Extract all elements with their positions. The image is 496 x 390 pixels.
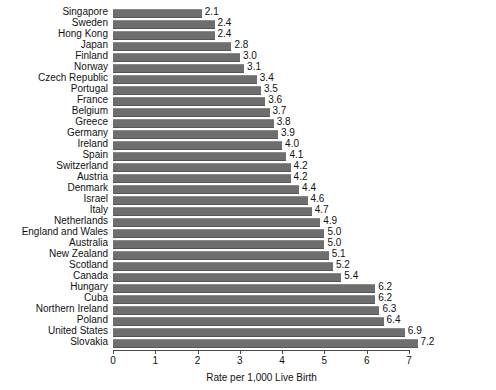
x-axis-tick [113, 350, 114, 354]
bar-category-label: Canada [0, 270, 108, 281]
bar [113, 229, 324, 238]
bar-category-label: Ireland [0, 138, 108, 149]
bar-value-label: 4.1 [289, 149, 303, 160]
bar-value-label: 4.4 [302, 182, 316, 193]
bar [113, 196, 308, 205]
bar [113, 31, 215, 40]
bar [113, 284, 375, 293]
x-axis-line [113, 350, 410, 351]
x-axis-title: Rate per 1,000 Live Birth [113, 372, 410, 383]
bar-category-label: Northern Ireland [0, 303, 108, 314]
bar [113, 53, 240, 62]
bar [113, 130, 278, 139]
bar-value-label: 4.2 [294, 160, 308, 171]
x-axis-tick [155, 350, 156, 354]
bar-category-label: Poland [0, 314, 108, 325]
bar [113, 262, 333, 271]
bar-category-label: Finland [0, 50, 108, 61]
bar-value-label: 5.2 [336, 259, 350, 270]
x-axis-tick-label: 3 [237, 355, 243, 367]
bar-value-label: 4.2 [294, 171, 308, 182]
x-axis-tick [367, 350, 368, 354]
bar-category-label: Singapore [0, 6, 108, 17]
bar-category-label: Slovakia [0, 336, 108, 347]
bar [113, 240, 324, 249]
bar-value-label: 2.8 [234, 39, 248, 50]
bar [113, 328, 405, 337]
bar-category-label: Norway [0, 61, 108, 72]
x-axis-tick [324, 350, 325, 354]
bar-category-label: Austria [0, 171, 108, 182]
bar-value-label: 3.0 [243, 50, 257, 61]
x-axis-tick-label: 2 [195, 355, 201, 367]
bar-category-label: Sweden [0, 17, 108, 28]
bar-category-label: Greece [0, 116, 108, 127]
bar-value-label: 3.9 [281, 127, 295, 138]
bar-value-label: 6.3 [382, 303, 396, 314]
x-axis-tick [198, 350, 199, 354]
bar-category-label: Belgium [0, 105, 108, 116]
bar-value-label: 3.8 [277, 116, 291, 127]
bar-value-label: 3.7 [273, 105, 287, 116]
bar-value-label: 6.2 [378, 281, 392, 292]
bar-chart: Singapore2.1Sweden2.4Hong Kong2.4Japan2.… [0, 0, 496, 390]
bar-value-label: 4.0 [285, 138, 299, 149]
bar [113, 185, 299, 194]
bar [113, 42, 231, 51]
bar [113, 251, 329, 260]
bar-value-label: 2.4 [218, 17, 232, 28]
bar [113, 86, 261, 95]
bar [113, 64, 244, 73]
bar [113, 20, 215, 29]
bar [113, 273, 341, 282]
bar-value-label: 5.4 [344, 270, 358, 281]
x-axis-tick [240, 350, 241, 354]
bar [113, 339, 418, 348]
bar-value-label: 3.5 [264, 83, 278, 94]
bar-value-label: 5.0 [327, 237, 341, 248]
bar-value-label: 5.0 [327, 226, 341, 237]
bar [113, 163, 291, 172]
bar-value-label: 5.1 [332, 248, 346, 259]
bar [113, 108, 270, 117]
x-axis-tick-label: 6 [364, 355, 370, 367]
bar-value-label: 4.9 [323, 215, 337, 226]
bar-category-label: New Zealand [0, 248, 108, 259]
bar-category-label: United States [0, 325, 108, 336]
bar-category-label: Israel [0, 193, 108, 204]
bar-category-label: England and Wales [0, 226, 108, 237]
bar-category-label: Czech Republic [0, 72, 108, 83]
x-axis-tick-label: 5 [322, 355, 328, 367]
bar-value-label: 2.4 [218, 28, 232, 39]
chart-plot-area: Singapore2.1Sweden2.4Hong Kong2.4Japan2.… [0, 8, 496, 349]
bar-category-label: Australia [0, 237, 108, 248]
bar [113, 207, 312, 216]
bar [113, 97, 265, 106]
bar-value-label: 4.7 [315, 204, 329, 215]
bar-value-label: 6.9 [408, 325, 422, 336]
bar-value-label: 7.2 [421, 336, 435, 347]
bar-category-label: Germany [0, 127, 108, 138]
x-axis-tick-label: 0 [110, 355, 116, 367]
bar-category-label: Japan [0, 39, 108, 50]
bar [113, 174, 291, 183]
bar-value-label: 3.6 [268, 94, 282, 105]
bar [113, 141, 282, 150]
bar [113, 119, 274, 128]
bar-value-label: 4.6 [311, 193, 325, 204]
bar-category-label: Spain [0, 149, 108, 160]
bar [113, 306, 379, 315]
bar-category-label: France [0, 94, 108, 105]
x-axis-tick [409, 350, 410, 354]
chart-bar-row: Slovakia7.2 [0, 338, 496, 349]
bar-category-label: Hungary [0, 281, 108, 292]
bar-category-label: Italy [0, 204, 108, 215]
bar-value-label: 2.1 [205, 6, 219, 17]
bar-category-label: Cuba [0, 292, 108, 303]
x-axis-tick [282, 350, 283, 354]
bar-value-label: 6.4 [387, 314, 401, 325]
x-axis-tick-label: 7 [406, 355, 412, 367]
bar [113, 9, 202, 18]
bar-category-label: Switzerland [0, 160, 108, 171]
bar [113, 75, 257, 84]
